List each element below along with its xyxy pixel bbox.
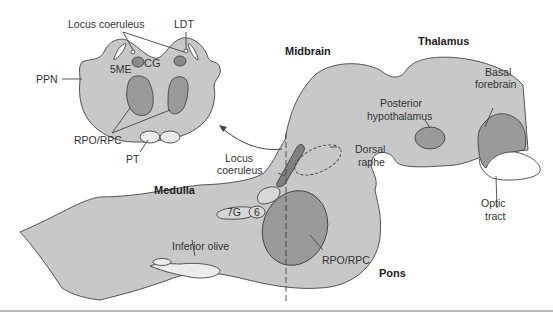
region-thalamus: Thalamus <box>418 35 469 47</box>
label-locus-coeruleus-cross: Locus coeruleus <box>68 18 144 30</box>
label-locus-coeruleus-1: Locus <box>225 152 253 164</box>
label-pt: PT <box>126 153 139 165</box>
locus-dot-right <box>184 49 188 53</box>
diagram: Locus coeruleus LDT PPN 5ME CG RPO/RPC P… <box>0 0 553 318</box>
label-ppn: PPN <box>36 73 58 85</box>
pt-left <box>140 131 160 143</box>
label-7g: 7G <box>227 206 241 218</box>
label-basal-forebrain-1: Basal <box>485 66 511 78</box>
locus-dot-left <box>131 50 135 54</box>
label-basal-forebrain-2: forebrain <box>475 78 516 90</box>
inferior-olive-small <box>153 259 171 266</box>
label-posterior-hypothalamus-2: hypothalamus <box>367 110 432 122</box>
region-medulla: Medulla <box>154 184 195 196</box>
cg-nucleus-left <box>132 57 144 67</box>
region-midbrain: Midbrain <box>285 45 331 57</box>
region-pons: Pons <box>379 267 406 279</box>
label-6: 6 <box>254 206 260 218</box>
cg-nucleus-right <box>174 56 186 66</box>
posterior-hypothalamus-region <box>415 127 445 149</box>
label-locus-coeruleus-2: coeruleus <box>217 164 263 176</box>
label-optic-tract-1: Optic <box>481 197 506 209</box>
label-rpo-rpc-cross: RPO/RPC <box>74 134 122 146</box>
rpo-rpc-left <box>127 76 154 116</box>
label-posterior-hypothalamus-1: Posterior <box>380 97 422 109</box>
section-arrow <box>222 128 282 150</box>
label-cg: CG <box>144 57 161 69</box>
label-optic-tract-2: tract <box>485 210 505 222</box>
label-inferior-olive: Inferior olive <box>172 240 229 252</box>
label-dorsal-raphe-2: raphe <box>358 156 385 168</box>
label-ldt: LDT <box>174 18 194 30</box>
diagram-svg <box>0 0 553 318</box>
label-rpo-rpc-sagittal: RPO/RPC <box>322 254 370 266</box>
label-dorsal-raphe-1: Dorsal <box>355 143 385 155</box>
label-5me: 5ME <box>110 63 132 75</box>
pt-right <box>160 131 180 143</box>
